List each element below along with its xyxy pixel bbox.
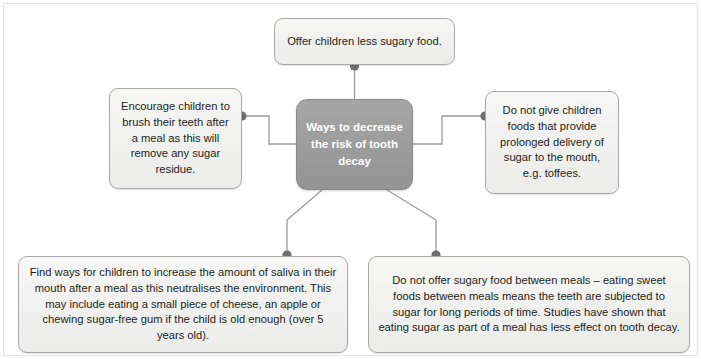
node-offer-less-sugary-food[interactable]: Offer children less sugary food. [274,18,455,65]
node-brush-teeth-after-meal[interactable]: Encourage children to brush their teeth … [109,88,242,189]
node-right-label: Do not give children foods that provide … [495,103,609,183]
diagram-frame: Offer children less sugary food. Encoura… [3,3,698,356]
node-left-label: Encourage children to brush their teeth … [119,99,232,179]
node-increase-saliva[interactable]: Find ways for children to increase the a… [18,256,348,353]
node-center-label: Ways to decrease the risk of tooth decay [306,119,403,169]
node-top-label: Offer children less sugary food. [284,34,445,50]
connector-line-bottom-left [287,190,322,255]
node-no-sugar-between-meals[interactable]: Do not offer sugary food between meals –… [368,256,690,353]
connector-line-left [243,116,296,144]
node-central-topic[interactable]: Ways to decrease the risk of tooth decay [296,99,413,190]
node-bottom-left-label: Find ways for children to increase the a… [28,265,338,345]
node-bottom-right-label: Do not offer sugary food between meals –… [378,273,680,337]
connector-line-bottom-right [387,190,436,255]
diagram-canvas: Offer children less sugary food. Encoura… [4,4,699,357]
node-avoid-prolonged-sugar-foods[interactable]: Do not give children foods that provide … [485,91,619,194]
connector-line-right [413,116,485,144]
